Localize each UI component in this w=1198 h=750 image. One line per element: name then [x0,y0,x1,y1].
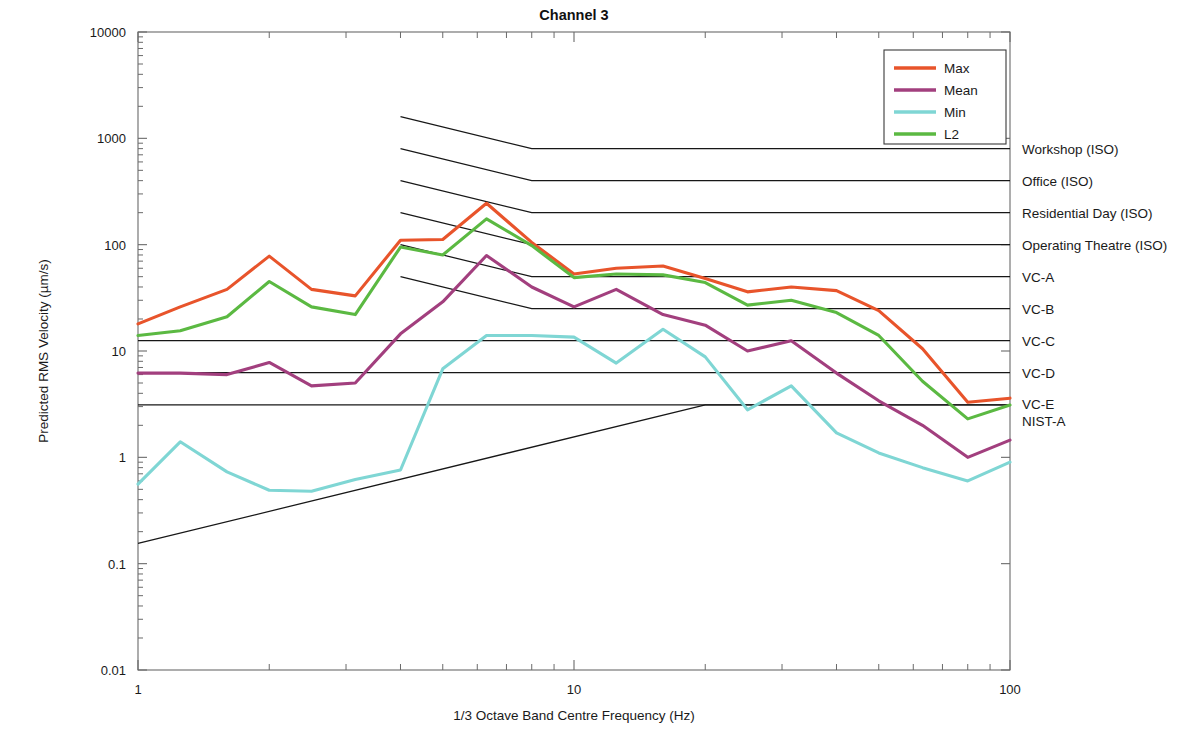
legend-label-min: Min [944,105,966,120]
criteria-label: Workshop (ISO) [1022,142,1119,157]
y-tick-label: 100 [104,238,126,253]
series-line-l2 [138,219,1010,419]
criteria-line [400,149,1010,181]
series-line-min [138,329,1010,491]
y-tick-label: 0.1 [108,557,126,572]
criteria-line [400,213,1010,245]
criteria-label: Operating Theatre (ISO) [1022,238,1167,253]
series-line-mean [138,256,1010,458]
criteria-label: VC-B [1022,302,1054,317]
plot-frame [138,32,1010,670]
criteria-label: NIST-A [1022,414,1066,429]
x-tick-label: 1 [134,682,141,697]
legend-label-l2: L2 [944,127,959,142]
criteria-label: Office (ISO) [1022,174,1093,189]
y-tick-label: 10 [112,344,126,359]
criteria-label: Residential Day (ISO) [1022,206,1153,221]
criteria-label: VC-D [1022,366,1055,381]
chart-title: Channel 3 [539,7,608,23]
chart-container: 0.010.1110100100010000110100Workshop (IS… [0,0,1198,750]
legend-label-mean: Mean [944,83,978,98]
y-tick-label: 10000 [90,25,126,40]
legend-label-max: Max [944,61,970,76]
y-axis-title: Predicted RMS Velocity (µm/s) [36,259,51,442]
criteria-label: VC-A [1022,270,1054,285]
velocity-spectrum-chart: 0.010.1110100100010000110100Workshop (IS… [0,0,1198,750]
criteria-label: VC-C [1022,334,1055,349]
x-tick-label: 10 [567,682,581,697]
x-tick-label: 100 [999,682,1021,697]
y-tick-label: 1000 [97,131,126,146]
x-axis-title: 1/3 Octave Band Centre Frequency (Hz) [453,708,695,723]
y-tick-label: 1 [119,450,126,465]
criteria-line [138,405,1010,544]
criteria-label: VC-E [1022,397,1054,412]
y-tick-label: 0.01 [101,663,126,678]
